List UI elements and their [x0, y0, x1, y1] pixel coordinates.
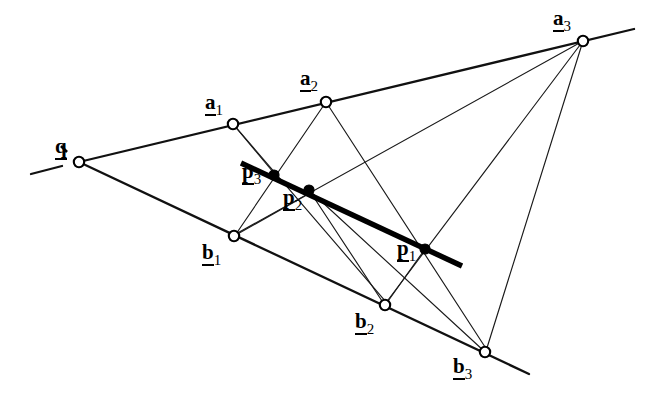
point-label-base-b1: b [202, 242, 214, 266]
point-node-p1[interactable] [420, 244, 430, 254]
point-label-base-q: q [55, 136, 67, 160]
point-label-base-a2: a [300, 68, 311, 92]
point-node-a1[interactable] [228, 119, 238, 129]
point-node-p2[interactable] [304, 185, 314, 195]
dash-left-of-q [31, 166, 62, 174]
line-p2-b3 [309, 190, 484, 351]
line-a3-b3 [486, 41, 583, 351]
point-label-b3: b3 [453, 356, 472, 380]
point-label-p1: p1 [397, 238, 416, 262]
point-node-q[interactable] [74, 157, 84, 167]
point-node-p3[interactable] [269, 170, 279, 180]
diagram-canvas [0, 0, 666, 402]
point-node-a2[interactable] [321, 97, 331, 107]
point-label-sub-a2: 2 [311, 79, 319, 94]
point-label-p3: p3 [242, 161, 261, 185]
point-label-sub-a1: 1 [216, 103, 224, 118]
point-node-b2[interactable] [380, 300, 390, 310]
point-label-base-a1: a [205, 92, 216, 116]
point-node-b1[interactable] [229, 231, 239, 241]
point-node-b3[interactable] [480, 347, 490, 357]
geometry-figure: qa1a2a3b1b2b3p1p2p3 [0, 0, 666, 402]
point-label-b2: b2 [355, 311, 374, 335]
point-label-p2: p2 [283, 187, 302, 211]
point-label-base-p3: p [242, 161, 254, 185]
point-label-a2: a2 [300, 68, 318, 92]
point-label-sub-p1: 1 [409, 249, 417, 264]
point-label-sub-p3: 3 [254, 172, 262, 187]
point-label-a3: a3 [553, 8, 571, 32]
point-label-a1: a1 [205, 92, 223, 116]
point-label-sub-p2: 2 [295, 198, 303, 213]
point-label-base-a3: a [553, 8, 564, 32]
point-label-sub-a3: 3 [564, 19, 572, 34]
point-label-b1: b1 [202, 242, 221, 266]
segment-layer [31, 29, 634, 374]
line-a1-p2-b2 [233, 124, 387, 303]
point-label-base-p2: p [283, 187, 295, 211]
point-label-base-b2: b [355, 311, 367, 335]
point-label-q: q [55, 136, 67, 160]
point-label-sub-b2: 2 [367, 322, 375, 337]
point-label-base-b3: b [453, 356, 465, 380]
point-label-sub-b3: 3 [465, 367, 473, 382]
point-node-a3[interactable] [578, 36, 588, 46]
point-label-sub-b1: 1 [214, 253, 222, 268]
point-label-base-p1: p [397, 238, 409, 262]
line-q-a1-a2-a3 [79, 29, 634, 162]
